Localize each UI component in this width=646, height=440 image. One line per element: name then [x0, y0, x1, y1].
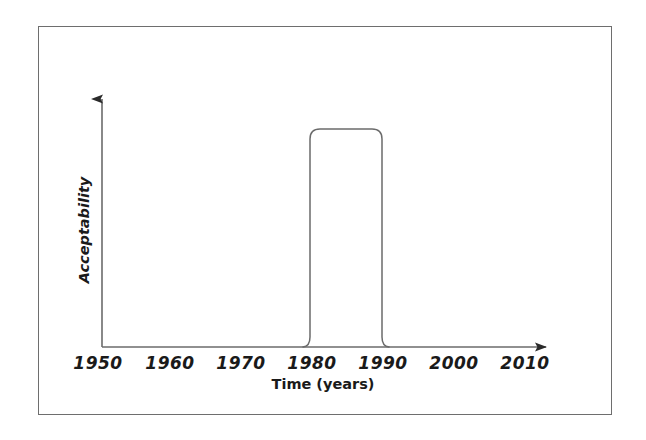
data-series-acceptability-pulse [303, 129, 389, 347]
x-axis-title: Time (years) [272, 377, 375, 392]
x-tick-label-1970: 1970 [216, 355, 265, 372]
x-tick-label-1980: 1980 [287, 355, 336, 372]
x-tick-label-1950: 1950 [73, 355, 122, 372]
x-tick-label-2010: 2010 [500, 355, 549, 372]
figure-root: 1950 1960 1970 1980 1990 2000 2010 Time … [0, 0, 646, 440]
chart-plot-area [0, 0, 646, 440]
x-tick-label-1960: 1960 [145, 355, 194, 372]
x-tick-label-2000: 2000 [429, 355, 478, 372]
y-axis-title: Acceptability [77, 177, 92, 284]
x-tick-label-1990: 1990 [358, 355, 407, 372]
